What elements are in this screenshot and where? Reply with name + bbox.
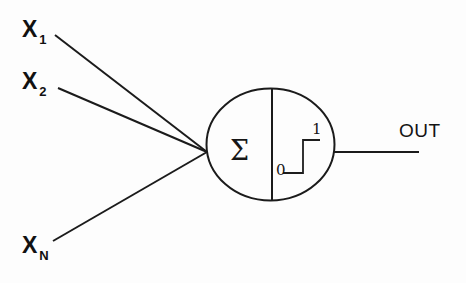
input-connections xyxy=(53,35,207,241)
connection-line-x2 xyxy=(58,88,207,152)
step-low-level-label: 0 xyxy=(276,163,286,178)
neuron-circle xyxy=(207,89,335,201)
input-symbol-x1: X xyxy=(22,16,37,42)
neuron-body xyxy=(207,89,335,201)
neuron-diagram: X1 X2 XN Σ 0 1 OUT xyxy=(0,0,466,283)
step-function-path xyxy=(283,140,320,173)
connection-line-x1 xyxy=(55,35,207,152)
input-symbol-xn: X xyxy=(22,232,37,258)
input-label-x2: X2 xyxy=(22,70,45,93)
step-high-level-label: 1 xyxy=(312,122,322,137)
input-subscript-x1: 1 xyxy=(39,32,46,47)
input-label-x1: X1 xyxy=(22,18,45,41)
input-label-xn: XN xyxy=(22,234,47,257)
step-function-glyph xyxy=(283,140,320,173)
summation-symbol: Σ xyxy=(230,137,249,164)
connection-line-xn xyxy=(53,152,207,241)
output-label: OUT xyxy=(399,121,441,140)
input-subscript-xn: N xyxy=(39,248,48,263)
input-symbol-x2: X xyxy=(22,68,37,94)
input-subscript-x2: 2 xyxy=(39,84,46,99)
